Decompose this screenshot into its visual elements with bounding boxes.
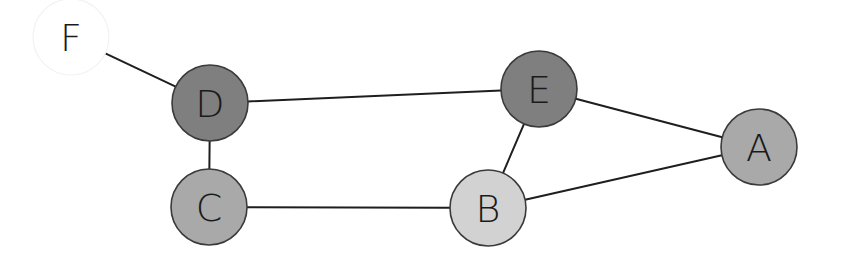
edge-c-b [247, 207, 450, 208]
edge-f-d [105, 53, 175, 86]
node-label: B [476, 187, 501, 231]
node-label: D [195, 82, 224, 126]
node-label: A [746, 126, 772, 170]
node-a: A [721, 109, 797, 185]
graph-diagram: FDEACB [0, 0, 843, 261]
nodes-layer: FDEACB [33, 0, 797, 246]
node-d: D [172, 65, 248, 141]
edge-e-a [576, 99, 723, 138]
node-label: C [196, 186, 223, 230]
node-label: E [527, 68, 551, 112]
node-c: C [171, 169, 247, 245]
node-e: E [501, 51, 577, 127]
edge-b-a [525, 155, 722, 199]
node-label: F [60, 16, 82, 60]
node-b: B [450, 170, 526, 246]
node-f: F [33, 0, 109, 75]
edge-d-e [248, 91, 501, 102]
edge-e-b [503, 124, 524, 173]
